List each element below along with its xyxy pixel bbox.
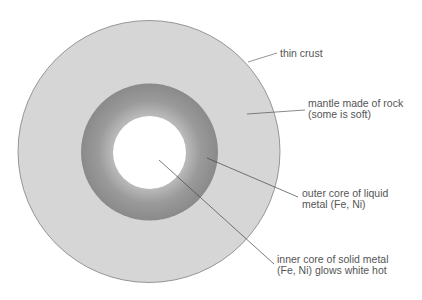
crust-label: thin crust <box>280 47 323 59</box>
outer-core-label: outer core of liquid metal (Fe, Ni) <box>302 187 391 210</box>
mantle-label: mantle made of rock (some is soft) <box>308 97 406 120</box>
inner-core-disc <box>113 116 186 189</box>
inner-core-label: inner core of solid metal (Fe, Ni) glows… <box>277 253 391 276</box>
earth-layers-diagram: thin crust mantle made of rock (some is … <box>0 0 422 300</box>
crust-leader-line <box>248 53 277 62</box>
diagram-svg: thin crust mantle made of rock (some is … <box>0 0 422 300</box>
